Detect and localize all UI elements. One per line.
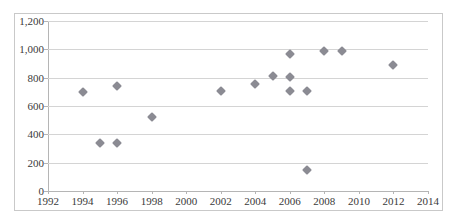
- x-tick-mark: [324, 191, 325, 194]
- x-tick-mark: [83, 191, 84, 194]
- y-tick-mark: [44, 163, 48, 164]
- x-tick-mark: [48, 191, 49, 194]
- x-tick-label: 2006: [279, 196, 301, 207]
- x-tick-mark: [221, 191, 222, 194]
- gridline-y: [48, 191, 428, 192]
- plot-area: [48, 21, 428, 191]
- x-tick-mark: [290, 191, 291, 194]
- y-axis-labels: 02004006008001,0001,200: [0, 0, 44, 224]
- x-tick-mark: [393, 191, 394, 194]
- x-tick-mark: [152, 191, 153, 194]
- y-tick-mark: [44, 134, 48, 135]
- x-tick-label: 2002: [210, 196, 232, 207]
- y-tick-label: 400: [28, 129, 45, 140]
- x-tick-label: 2000: [175, 196, 197, 207]
- y-tick-mark: [44, 106, 48, 107]
- y-tick-label: 200: [28, 158, 45, 169]
- x-tick-mark: [186, 191, 187, 194]
- gridline-y: [48, 106, 428, 107]
- x-tick-label: 2004: [244, 196, 266, 207]
- x-tick-label: 2014: [417, 196, 439, 207]
- gridline-y: [48, 163, 428, 164]
- x-tick-label: 2008: [313, 196, 335, 207]
- y-tick-mark: [44, 78, 48, 79]
- x-tick-label: 1992: [37, 196, 59, 207]
- x-tick-mark: [428, 191, 429, 194]
- x-tick-label: 1998: [141, 196, 163, 207]
- gridline-y: [48, 49, 428, 50]
- x-tick-label: 1994: [72, 196, 94, 207]
- y-tick-label: 1,000: [19, 44, 44, 55]
- x-tick-label: 2010: [348, 196, 370, 207]
- x-tick-label: 2012: [382, 196, 404, 207]
- x-tick-mark: [359, 191, 360, 194]
- x-tick-mark: [117, 191, 118, 194]
- x-tick-label: 1996: [106, 196, 128, 207]
- y-tick-mark: [44, 21, 48, 22]
- gridline-y: [48, 21, 428, 22]
- gridline-y: [48, 134, 428, 135]
- x-tick-mark: [255, 191, 256, 194]
- y-tick-label: 600: [28, 101, 45, 112]
- y-tick-mark: [44, 49, 48, 50]
- y-tick-label: 800: [28, 73, 45, 84]
- y-tick-label: 1,200: [19, 16, 44, 27]
- gridline-y: [48, 78, 428, 79]
